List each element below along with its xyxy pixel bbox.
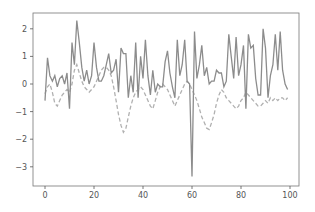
- x-tick-label: 60: [187, 191, 197, 200]
- x-tick-label: 80: [236, 191, 246, 200]
- y-tick-label: 0: [22, 80, 27, 89]
- y-tick-label: 1: [22, 52, 27, 61]
- line-chart: 210−1−2−3 020406080100: [0, 0, 315, 212]
- x-axis: 020406080100: [42, 186, 297, 200]
- y-tick-label: −3: [15, 163, 27, 172]
- plot-area: [33, 13, 299, 186]
- x-tick-label: 20: [89, 191, 99, 200]
- y-tick-label: 2: [22, 25, 27, 34]
- y-tick-label: −2: [15, 135, 27, 144]
- x-tick-label: 0: [42, 191, 47, 200]
- y-tick-label: −1: [15, 108, 27, 117]
- y-axis: 210−1−2−3: [15, 25, 33, 172]
- x-tick-label: 40: [138, 191, 148, 200]
- x-tick-label: 100: [282, 191, 297, 200]
